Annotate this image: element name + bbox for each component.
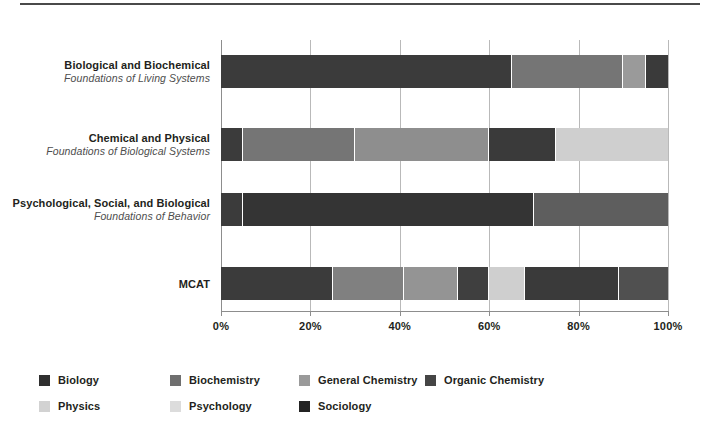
legend-item-label: Physics [58, 400, 100, 412]
category-label-title: Psychological, Social, and Biological [0, 197, 210, 210]
bar-segment [489, 128, 556, 161]
x-tick-label: 40% [388, 320, 411, 332]
category-label: Chemical and PhysicalFoundations of Biol… [0, 132, 210, 158]
x-tick-label: 60% [478, 320, 501, 332]
x-tick-mark [221, 311, 222, 316]
bar-segment [221, 55, 512, 88]
category-label: MCAT [0, 278, 210, 291]
legend-swatch-icon [299, 401, 310, 412]
bar-segment [619, 267, 668, 300]
x-tick-label: 80% [567, 320, 590, 332]
legend-item-label: Psychology [189, 400, 252, 412]
legend-swatch-icon [425, 375, 436, 386]
x-tick-mark [579, 311, 580, 316]
bar-segment [221, 128, 243, 161]
x-tick-label: 0% [213, 320, 229, 332]
category-label: Psychological, Social, and BiologicalFou… [0, 197, 210, 223]
bar-row [221, 267, 668, 300]
bar-segment [556, 128, 668, 161]
legend-item-label: Organic Chemistry [444, 374, 544, 386]
x-tick-mark [668, 311, 669, 316]
chart-legend: BiologyBiochemistryGeneral ChemistryOrga… [0, 370, 713, 430]
legend-swatch-icon [39, 375, 50, 386]
bar-row [221, 128, 668, 161]
legend-swatch-icon [170, 401, 181, 412]
x-tick-mark [400, 311, 401, 316]
bar-segment [489, 267, 525, 300]
stacked-bar-chart: 0%20%40%60%80%100% Biological and Bioche… [0, 0, 713, 340]
legend-item-biology[interactable]: Biology [39, 374, 99, 386]
category-label-subtitle: Foundations of Living Systems [0, 72, 210, 85]
x-tick-mark [489, 311, 490, 316]
legend-item-biochemistry[interactable]: Biochemistry [170, 374, 260, 386]
bar-segment [623, 55, 645, 88]
bar-segment [512, 55, 624, 88]
legend-item-organic-chemistry[interactable]: Organic Chemistry [425, 374, 544, 386]
bar-segment [221, 267, 333, 300]
legend-item-sociology[interactable]: Sociology [299, 400, 371, 412]
legend-swatch-icon [39, 401, 50, 412]
bar-row [221, 193, 668, 226]
legend-item-general-chemistry[interactable]: General Chemistry [299, 374, 418, 386]
category-label-title: Biological and Biochemical [0, 59, 210, 72]
bar-row [221, 55, 668, 88]
category-label-title: MCAT [0, 278, 210, 291]
x-tick-mark [310, 311, 311, 316]
gridline-100pct [668, 40, 669, 312]
x-axis-line [221, 311, 668, 312]
x-tick-label: 100% [654, 320, 683, 332]
bar-segment [243, 193, 534, 226]
bar-segment [243, 128, 355, 161]
legend-swatch-icon [299, 375, 310, 386]
legend-item-label: Sociology [318, 400, 371, 412]
bar-segment [458, 267, 489, 300]
legend-item-label: Biochemistry [189, 374, 260, 386]
bar-segment [404, 267, 458, 300]
bar-segment [534, 193, 668, 226]
category-label: Biological and BiochemicalFoundations of… [0, 59, 210, 85]
legend-swatch-icon [170, 375, 181, 386]
bar-segment [333, 267, 405, 300]
category-label-subtitle: Foundations of Biological Systems [0, 145, 210, 158]
legend-item-physics[interactable]: Physics [39, 400, 100, 412]
x-tick-label: 20% [299, 320, 322, 332]
legend-item-label: General Chemistry [318, 374, 418, 386]
category-label-title: Chemical and Physical [0, 132, 210, 145]
legend-item-psychology[interactable]: Psychology [170, 400, 252, 412]
bar-segment [525, 267, 619, 300]
category-label-subtitle: Foundations of Behavior [0, 210, 210, 223]
bar-segment [646, 55, 668, 88]
bar-segment [355, 128, 489, 161]
bar-segment [221, 193, 243, 226]
legend-item-label: Biology [58, 374, 99, 386]
